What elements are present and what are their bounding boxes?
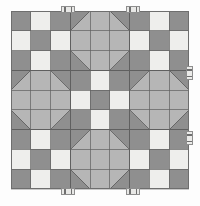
block-bottom-left-patch-2-2 [51, 169, 71, 189]
block-top-left-patch-1-2 [51, 31, 71, 51]
block-top-right-patch-1-1 [149, 31, 169, 51]
block-top-left-patch-2-1 [31, 51, 51, 71]
block-bottom-left-patch-2-0 [11, 169, 31, 189]
block-top-right-patch-2-2 [169, 51, 189, 71]
block-bottom-right-patch-1-1 [149, 149, 169, 169]
block-bottom-right-patch-0-2 [169, 130, 189, 150]
block-top-left-patch-0-2 [51, 11, 71, 31]
block-center-patch-2-2 [110, 110, 130, 130]
block-bottom-left-patch-0-2 [51, 130, 71, 150]
block-bottom-right-patch-1-0 [130, 149, 150, 169]
block-top-right-patch-1-0 [130, 31, 150, 51]
block-top-left-patch-0-1 [31, 11, 51, 31]
block-top-left-patch-2-0 [11, 51, 31, 71]
block-center-patch-0-1 [90, 70, 110, 90]
block-top-right-patch-0-2 [169, 11, 189, 31]
quilt-top-surface [11, 11, 189, 190]
block-bottom-right-patch-2-2 [169, 169, 189, 189]
block-bottom-right-patch-2-1 [149, 169, 169, 189]
block-center-patch-2-1 [90, 110, 110, 130]
block-top-right-patch-0-0 [130, 11, 150, 31]
block-top-right-patch-1-2 [169, 31, 189, 51]
block-top-right-patch-2-1 [149, 51, 169, 71]
block-center-patch-0-2 [110, 70, 130, 90]
block-bottom-left-patch-0-1 [31, 130, 51, 150]
block-center-patch-1-0 [70, 90, 90, 110]
block-center-patch-0-0 [70, 70, 90, 90]
block-top-left-patch-2-2 [51, 51, 71, 71]
block-bottom-left-patch-1-2 [51, 149, 71, 169]
block-top-right-patch-0-1 [149, 11, 169, 31]
block-bottom-right-patch-2-0 [130, 169, 150, 189]
patch-layer [11, 11, 189, 189]
block-top-left-patch-0-0 [11, 11, 31, 31]
block-top-right-patch-2-0 [130, 51, 150, 71]
block-center-patch-2-0 [70, 110, 90, 130]
block-center-patch-1-1 [90, 90, 110, 110]
block-bottom-right-patch-0-0 [130, 130, 150, 150]
block-bottom-left-patch-0-0 [11, 130, 31, 150]
block-bottom-left-patch-2-1 [31, 169, 51, 189]
block-top-left-patch-1-0 [11, 31, 31, 51]
block-bottom-left-patch-1-1 [31, 149, 51, 169]
block-center-patch-1-2 [110, 90, 130, 110]
block-bottom-left-patch-1-0 [11, 149, 31, 169]
block-bottom-right-patch-1-2 [169, 149, 189, 169]
quilt-pattern-svg [11, 11, 189, 190]
quilt-image-canvas [0, 0, 200, 206]
block-top-left-patch-1-1 [31, 31, 51, 51]
block-bottom-right-patch-0-1 [149, 130, 169, 150]
